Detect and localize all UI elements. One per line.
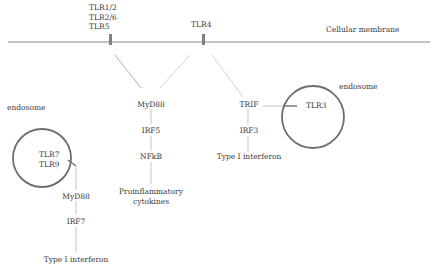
irf5-label: IRF5 (142, 126, 161, 136)
tlr7-9-label: TLR7 TLR9 (39, 150, 59, 169)
tlr1-2-6-5-receptor (109, 34, 112, 45)
irf3-label: IRF3 (240, 126, 259, 136)
tlr2-6-label: TLR2/6 (89, 13, 117, 23)
tlr4-label: TLR4 (191, 20, 211, 30)
cytokines-line-2: cytokines (119, 197, 183, 207)
right-endosome-circle (282, 86, 344, 148)
tlr7-label: TLR7 (39, 150, 59, 160)
myd88-label: MyD88 (137, 100, 164, 110)
tlr5-label: TLR5 (89, 22, 117, 32)
trif-label: TRIF (240, 100, 259, 110)
left-myd88-label: MyD88 (62, 192, 89, 202)
trif-interferon-label: Type I interferon (217, 152, 282, 162)
cellular-membrane-label: Cellular membrane (326, 25, 399, 35)
connector-tlr4-trif (212, 55, 243, 97)
nfkb-label: NFkB (140, 152, 162, 162)
tlr-surface-group-label: TLR1/2 TLR2/6 TLR5 (89, 3, 117, 32)
tlr3-label: TLR3 (306, 101, 326, 111)
proinflammatory-cytokines-label: Proinflammatory cytokines (119, 187, 183, 206)
left-endosome-label: endosome (7, 103, 46, 113)
cytokines-line-1: Proinflammatory (119, 187, 183, 197)
tlr4-receptor (202, 34, 205, 45)
irf7-label: IRF7 (67, 217, 86, 227)
tlr1-2-label: TLR1/2 (89, 3, 117, 13)
right-endosome-label: endosome (339, 82, 378, 92)
connector-tlr1-myd88 (115, 55, 141, 88)
left-interferon-label: Type I interferon (44, 255, 109, 265)
diagram-lines (0, 0, 437, 271)
connector-tlr4-myd88 (160, 55, 190, 88)
tlr9-label: TLR9 (39, 160, 59, 170)
